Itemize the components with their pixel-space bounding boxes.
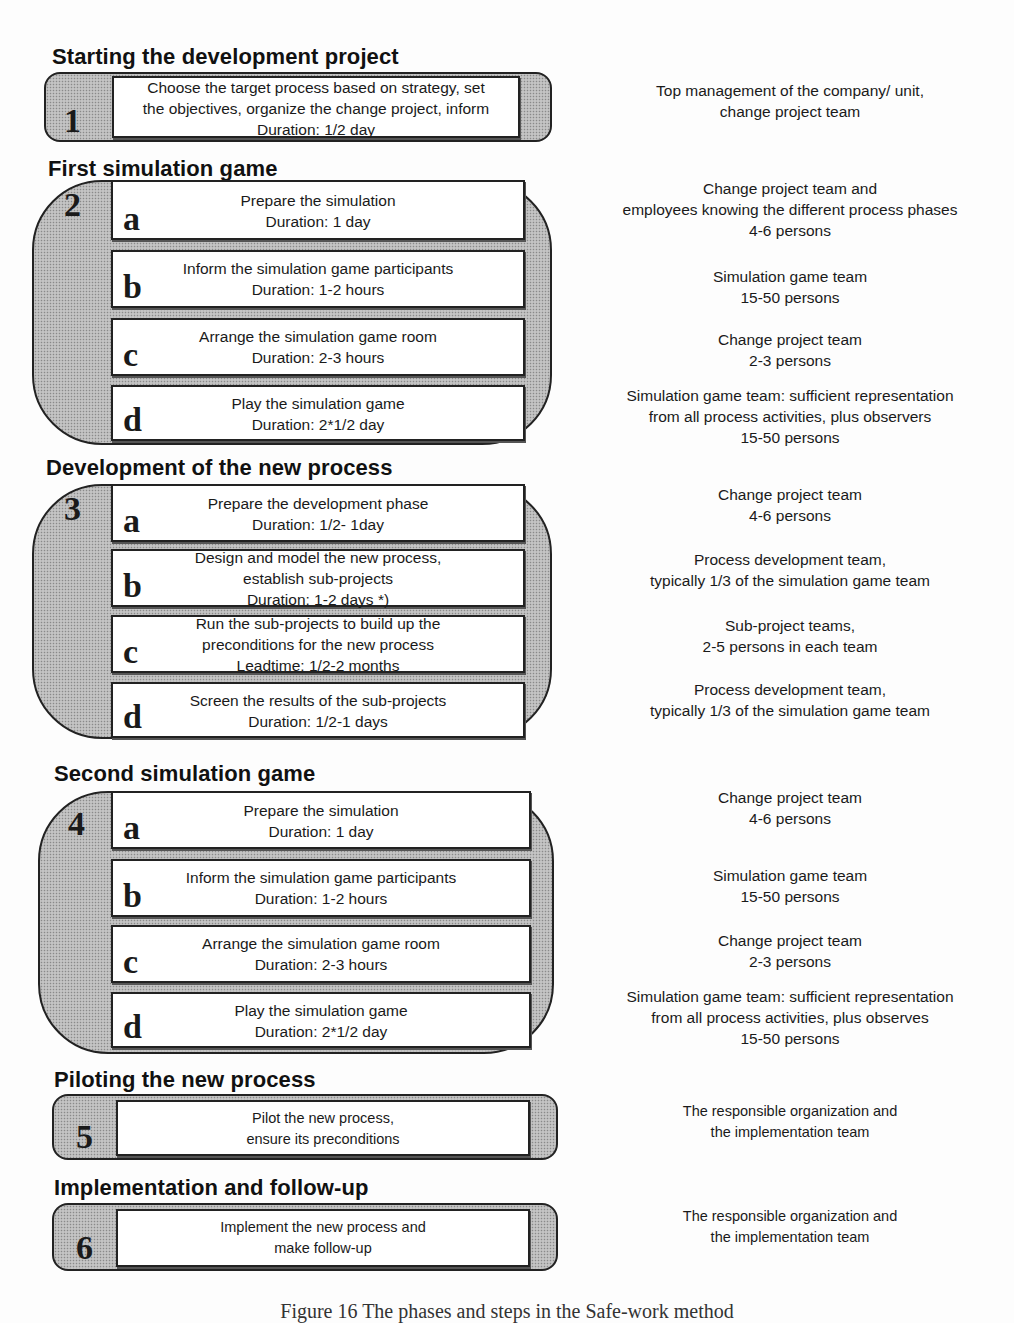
phase-2-container: 2 a Prepare the simulation Duration: 1 d…	[32, 180, 552, 445]
phase-4a-responsible: Change project team 4-6 persons	[580, 787, 1000, 829]
phase-6-title: Implementation and follow-up	[54, 1175, 368, 1201]
phase-5-number: 5	[76, 1120, 93, 1154]
phase-2-step-a: a Prepare the simulation Duration: 1 day	[111, 180, 525, 240]
phase-3-number: 3	[64, 492, 81, 526]
phase-2b-responsible: Simulation game team 15-50 persons	[580, 266, 1000, 308]
phase-3-step-d: d Screen the results of the sub-projects…	[111, 682, 525, 738]
phase-5-title: Piloting the new process	[54, 1067, 316, 1093]
phase-3b-responsible: Process development team, typically 1/3 …	[580, 549, 1000, 591]
phase-5-responsible: The responsible organization and the imp…	[580, 1101, 1000, 1143]
phase-4-step-d: d Play the simulation game Duration: 2*1…	[111, 992, 531, 1048]
phase-1-title: Starting the development project	[52, 44, 399, 70]
phase-6-number: 6	[76, 1231, 93, 1265]
phase-2d-responsible: Simulation game team: sufficient represe…	[580, 385, 1000, 448]
phase-4-step-a: a Prepare the simulation Duration: 1 day	[111, 791, 531, 849]
phase-4-step-b: b Inform the simulation game participant…	[111, 859, 531, 917]
phase-2-title: First simulation game	[48, 156, 277, 182]
phase-4c-responsible: Change project team 2-3 persons	[580, 930, 1000, 972]
phase-3d-responsible: Process development team, typically 1/3 …	[580, 679, 1000, 721]
phase-1-responsible: Top management of the company/ unit, cha…	[580, 80, 1000, 122]
phase-6-container: 6 Implement the new process and make fol…	[52, 1203, 558, 1271]
phase-1-container: 1 Choose the target process based on str…	[44, 72, 552, 142]
phase-3-step-b: b Design and model the new process, esta…	[111, 549, 525, 607]
phase-3-step-c: c Run the sub-projects to build up the p…	[111, 615, 525, 673]
phase-1-step-box: Choose the target process based on strat…	[112, 76, 520, 138]
phase-4d-responsible: Simulation game team: sufficient represe…	[580, 986, 1000, 1049]
phase-1-number: 1	[64, 104, 81, 138]
phase-4b-responsible: Simulation game team 15-50 persons	[580, 865, 1000, 907]
phase-2c-responsible: Change project team 2-3 persons	[580, 329, 1000, 371]
figure-caption: Figure 16 The phases and steps in the Sa…	[0, 1300, 1014, 1323]
phase-2-number: 2	[64, 188, 81, 222]
phase-3-container: 3 a Prepare the development phase Durati…	[32, 484, 552, 739]
phase-5-container: 5 Pilot the new process, ensure its prec…	[52, 1094, 558, 1160]
phase-4-number: 4	[68, 807, 85, 841]
phase-6-step-box: Implement the new process and make follo…	[116, 1209, 530, 1267]
phase-6-responsible: The responsible organization and the imp…	[580, 1206, 1000, 1248]
phase-5-step-box: Pilot the new process, ensure its precon…	[116, 1100, 530, 1156]
phase-3-title: Development of the new process	[46, 455, 393, 481]
phase-4-title: Second simulation game	[54, 761, 315, 787]
phase-3c-responsible: Sub-project teams, 2-5 persons in each t…	[580, 615, 1000, 657]
phase-3a-responsible: Change project team 4-6 persons	[580, 484, 1000, 526]
phase-2-step-c: c Arrange the simulation game room Durat…	[111, 318, 525, 376]
phase-3-step-a: a Prepare the development phase Duration…	[111, 484, 525, 542]
phase-2-step-b: b Inform the simulation game participant…	[111, 250, 525, 308]
phase-4-step-c: c Arrange the simulation game room Durat…	[111, 925, 531, 983]
phase-1-step-text: Choose the target process based on strat…	[114, 77, 518, 140]
phase-4-container: 4 a Prepare the simulation Duration: 1 d…	[38, 791, 554, 1054]
phase-2-step-d: d Play the simulation game Duration: 2*1…	[111, 385, 525, 441]
phase-2a-responsible: Change project team and employees knowin…	[580, 178, 1000, 241]
